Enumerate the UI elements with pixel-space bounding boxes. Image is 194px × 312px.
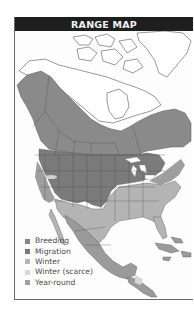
year-round-swatch (25, 280, 30, 285)
range-map-panel: RANGE MAP (14, 17, 193, 300)
migration-swatch (25, 249, 30, 254)
legend-item-winter: Winter (25, 257, 93, 267)
legend-item-migration: Migration (25, 246, 93, 256)
legend-label: Winter (scarce) (35, 267, 93, 277)
breeding-swatch (25, 239, 30, 244)
range-legend: Breeding Migration Winter Winter (scarce… (25, 236, 93, 288)
salt-lake (45, 175, 57, 179)
range-map-title: RANGE MAP (71, 19, 137, 30)
legend-item-winter-scarce: Winter (scarce) (25, 267, 93, 277)
caribbean-islands (155, 237, 191, 261)
legend-label: Year-round (35, 278, 75, 288)
florida (153, 217, 167, 239)
legend-label: Migration (35, 247, 71, 257)
winter-swatch (25, 259, 30, 264)
legend-label: Winter (35, 257, 60, 267)
legend-item-year-round: Year-round (25, 278, 93, 288)
legend-label: Breeding (35, 236, 69, 246)
range-map-header: RANGE MAP (15, 17, 193, 31)
legend-item-breeding: Breeding (25, 236, 93, 246)
winter-scarce-swatch (25, 270, 30, 275)
